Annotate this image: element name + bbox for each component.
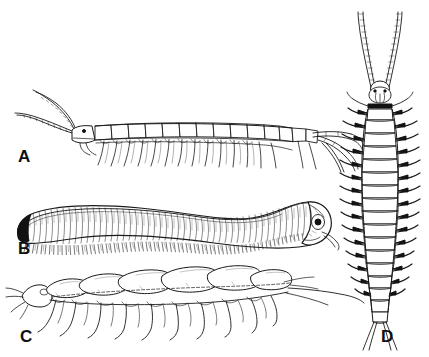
figure-label-d: D <box>381 328 393 345</box>
tergite-1-d <box>367 109 393 120</box>
terminal-tergite-d <box>372 312 388 322</box>
figure-label-b: B <box>18 240 30 257</box>
figure-d-centipede-dorsal <box>0 0 429 357</box>
antenna-group-d <box>358 12 402 92</box>
figure-label-c: C <box>20 328 32 345</box>
forcipule-band-d <box>368 104 392 108</box>
figure-d-group <box>340 12 420 350</box>
eye-right-d <box>384 90 386 92</box>
illustration-plate: A B C D <box>0 0 429 357</box>
antenna-annulations-d <box>359 14 401 86</box>
eye-left-d <box>374 90 376 92</box>
figure-label-a: A <box>18 148 30 165</box>
